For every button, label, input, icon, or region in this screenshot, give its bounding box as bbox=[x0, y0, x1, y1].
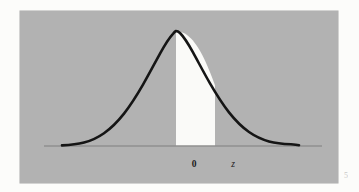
plot-panel: 0 z bbox=[20, 11, 338, 183]
normal-curve-plot bbox=[20, 11, 338, 183]
figure-root: 0 z 5 bbox=[0, 0, 359, 192]
page-corner-mark: 5 bbox=[344, 170, 354, 182]
axis-tick-label-zero: 0 bbox=[184, 159, 204, 169]
axis-tick-label-z: z bbox=[223, 159, 243, 169]
shaded-area-0-to-z bbox=[176, 31, 215, 146]
